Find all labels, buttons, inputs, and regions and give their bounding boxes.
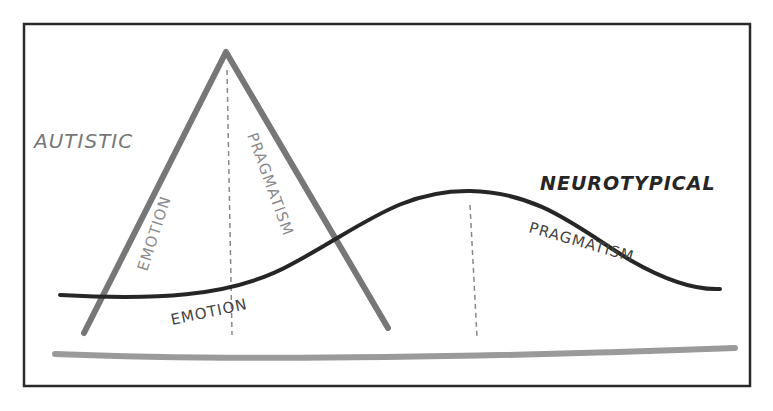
neurotypical-label: NEUROTYPICAL bbox=[540, 172, 716, 194]
autistic-pragmatism-label: PRAGMATISM bbox=[243, 130, 297, 238]
neurotypical-divider-dashed bbox=[470, 205, 477, 337]
autistic-divider-dashed bbox=[227, 70, 232, 335]
autistic-vs-neurotypical-diagram: AUTISTIC NEUROTYPICAL EMOTION PRAGMATISM… bbox=[0, 0, 773, 411]
frame bbox=[24, 24, 750, 386]
neurotypical-emotion-label: EMOTION bbox=[169, 295, 249, 329]
autistic-label: AUTISTIC bbox=[32, 129, 133, 153]
baseline bbox=[55, 348, 735, 358]
autistic-emotion-label: EMOTION bbox=[134, 194, 175, 274]
autistic-triangle bbox=[84, 52, 388, 333]
neurotypical-pragmatism-label: PRAGMATISM bbox=[527, 219, 636, 266]
